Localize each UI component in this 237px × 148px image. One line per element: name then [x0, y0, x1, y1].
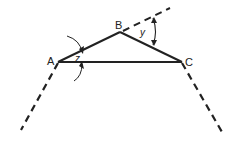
- triangle-diagram: A B C z y: [0, 0, 237, 148]
- angle-label-z: z: [74, 53, 80, 64]
- vertex-label-a: A: [47, 55, 55, 67]
- arrowhead-y-top: [151, 17, 157, 23]
- arrowhead-y-bottom: [151, 40, 157, 46]
- extension-a: [21, 63, 58, 130]
- angle-label-y: y: [139, 27, 146, 38]
- extension-b: [123, 8, 170, 31]
- vertex-label-b: B: [115, 19, 122, 31]
- vertex-label-c: C: [185, 56, 193, 68]
- extension-c: [182, 63, 222, 132]
- side-bc: [120, 32, 182, 62]
